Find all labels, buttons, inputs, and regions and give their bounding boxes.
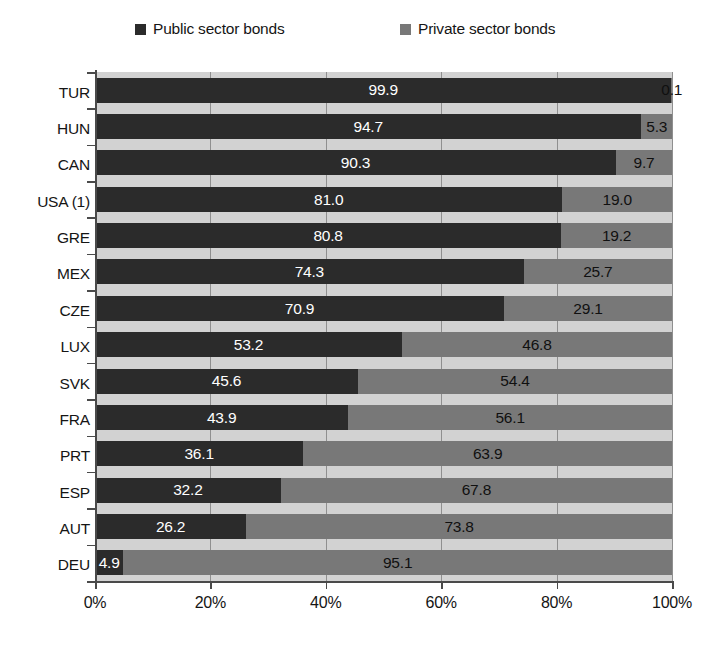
bar-segment-private[interactable]: 73.8 — [246, 514, 672, 539]
bar-segment-private[interactable]: 19.0 — [562, 187, 672, 212]
bar-segment-private[interactable]: 54.4 — [358, 369, 672, 394]
bar-value-label-public: 81.0 — [314, 192, 343, 208]
bar-row: 70.929.1 — [95, 296, 672, 321]
bar-segment-private[interactable]: 25.7 — [524, 259, 672, 284]
bar-segment-public[interactable]: 81.0 — [95, 187, 562, 212]
bar-value-label-private: 63.9 — [473, 446, 502, 462]
legend-swatch-private-icon — [400, 24, 411, 35]
bar-row: 81.019.0 — [95, 187, 672, 212]
bar-segment-private[interactable]: 0.1 — [671, 78, 672, 103]
y-axis-label-gre: GRE — [4, 230, 90, 246]
y-axis-label-aut: AUT — [4, 521, 90, 537]
bar-value-label-private: 56.1 — [495, 410, 524, 426]
bar-segment-private[interactable]: 95.1 — [123, 550, 672, 575]
y-axis-label-esp: ESP — [4, 485, 90, 501]
bar-segment-public[interactable]: 43.9 — [95, 405, 348, 430]
bar-value-label-private: 0.1 — [661, 82, 682, 98]
y-axis-label-hun: HUN — [4, 121, 90, 137]
bar-segment-public[interactable]: 36.1 — [95, 441, 303, 466]
bar-segment-private[interactable]: 5.3 — [641, 114, 672, 139]
bar-segment-private[interactable]: 63.9 — [303, 441, 672, 466]
bar-value-label-public: 4.9 — [99, 555, 120, 571]
bar-row: 90.39.7 — [95, 150, 672, 175]
bar-segment-public[interactable]: 53.2 — [95, 332, 402, 357]
bar-value-label-private: 5.3 — [646, 119, 667, 135]
legend-entry-private-sector-bonds: Private sector bonds — [400, 20, 555, 38]
bar-segment-private[interactable]: 46.8 — [402, 332, 672, 357]
bar-value-label-public: 45.6 — [212, 373, 241, 389]
chart-legend: Public sector bonds Private sector bonds — [0, 18, 719, 46]
x-axis-tick-labels: 0%20%40%60%80%100% — [95, 594, 673, 620]
bar-row: 53.246.8 — [95, 332, 672, 357]
legend-label-public: Public sector bonds — [153, 20, 284, 38]
bar-value-label-public: 90.3 — [341, 155, 370, 171]
y-axis-label-usa-1: USA (1) — [4, 194, 90, 210]
x-axis-tick-label-80: 80% — [541, 594, 572, 612]
y-axis-line — [95, 70, 97, 583]
x-axis-tick-label-20: 20% — [195, 594, 226, 612]
x-axis-tick — [557, 581, 559, 589]
bar-segment-private[interactable]: 19.2 — [561, 223, 672, 248]
gridline-100 — [672, 72, 673, 581]
bar-segment-private[interactable]: 56.1 — [348, 405, 672, 430]
bar-segment-public[interactable]: 26.2 — [95, 514, 246, 539]
bar-segment-public[interactable]: 90.3 — [95, 150, 616, 175]
x-axis-tick-label-100: 100% — [652, 594, 692, 612]
y-axis-label-deu: DEU — [4, 557, 90, 573]
bar-row: 32.267.8 — [95, 478, 672, 503]
bar-row: 80.819.2 — [95, 223, 672, 248]
bar-row: 94.75.3 — [95, 114, 672, 139]
bar-value-label-private: 9.7 — [634, 155, 655, 171]
bar-segment-public[interactable]: 4.9 — [95, 550, 123, 575]
bar-segment-public[interactable]: 99.9 — [95, 78, 671, 103]
bar-value-label-private: 19.2 — [602, 228, 631, 244]
bar-row: 4.995.1 — [95, 550, 672, 575]
bar-segment-private[interactable]: 29.1 — [504, 296, 672, 321]
bar-value-label-public: 43.9 — [207, 410, 236, 426]
bar-row: 43.956.1 — [95, 405, 672, 430]
gridline-40 — [326, 72, 327, 581]
x-axis-tick — [441, 581, 443, 589]
chart-plot-area: 99.90.194.75.390.39.781.019.080.819.274.… — [95, 72, 672, 581]
y-axis-labels: TURHUNCANUSA (1)GREMEXCZELUXSVKFRAPRTESP… — [0, 72, 90, 581]
x-axis-tick — [95, 581, 97, 589]
bar-value-label-private: 46.8 — [522, 337, 551, 353]
bar-value-label-private: 25.7 — [583, 264, 612, 280]
bar-value-label-public: 26.2 — [156, 519, 185, 535]
x-axis-tick — [210, 581, 212, 589]
bar-value-label-private: 73.8 — [444, 519, 473, 535]
bar-value-label-public: 53.2 — [234, 337, 263, 353]
x-axis-tick-label-40: 40% — [310, 594, 341, 612]
bar-value-label-private: 29.1 — [573, 301, 602, 317]
bar-segment-public[interactable]: 32.2 — [95, 478, 281, 503]
bar-value-label-private: 54.4 — [500, 373, 529, 389]
y-axis-label-tur: TUR — [4, 85, 90, 101]
legend-entry-public-sector-bonds: Public sector bonds — [135, 20, 284, 38]
y-axis-label-can: CAN — [4, 157, 90, 173]
x-axis-tick — [326, 581, 328, 589]
legend-label-private: Private sector bonds — [418, 20, 555, 38]
bar-value-label-private: 67.8 — [462, 482, 491, 498]
bar-value-label-private: 95.1 — [383, 555, 412, 571]
x-axis-ticks — [95, 581, 673, 590]
bar-row: 26.273.8 — [95, 514, 672, 539]
x-axis-tick-label-0: 0% — [84, 594, 107, 612]
bar-segment-private[interactable]: 9.7 — [616, 150, 672, 175]
bar-segment-public[interactable]: 94.7 — [95, 114, 641, 139]
bar-segment-private[interactable]: 67.8 — [281, 478, 672, 503]
y-axis-label-mex: MEX — [4, 266, 90, 282]
bar-segment-public[interactable]: 70.9 — [95, 296, 504, 321]
y-axis-tick — [87, 581, 95, 583]
bar-segment-public[interactable]: 80.8 — [95, 223, 561, 248]
y-axis-label-svk: SVK — [4, 376, 90, 392]
bar-row: 99.90.1 — [95, 78, 672, 103]
bar-value-label-public: 99.9 — [369, 82, 398, 98]
bar-segment-public[interactable]: 74.3 — [95, 259, 524, 284]
bar-value-label-public: 36.1 — [184, 446, 213, 462]
bar-segment-public[interactable]: 45.6 — [95, 369, 358, 394]
bar-value-label-public: 74.3 — [295, 264, 324, 280]
x-axis-tick-label-60: 60% — [425, 594, 456, 612]
gridline-20 — [210, 72, 211, 581]
bar-value-label-public: 32.2 — [173, 482, 202, 498]
gridline-60 — [441, 72, 442, 581]
